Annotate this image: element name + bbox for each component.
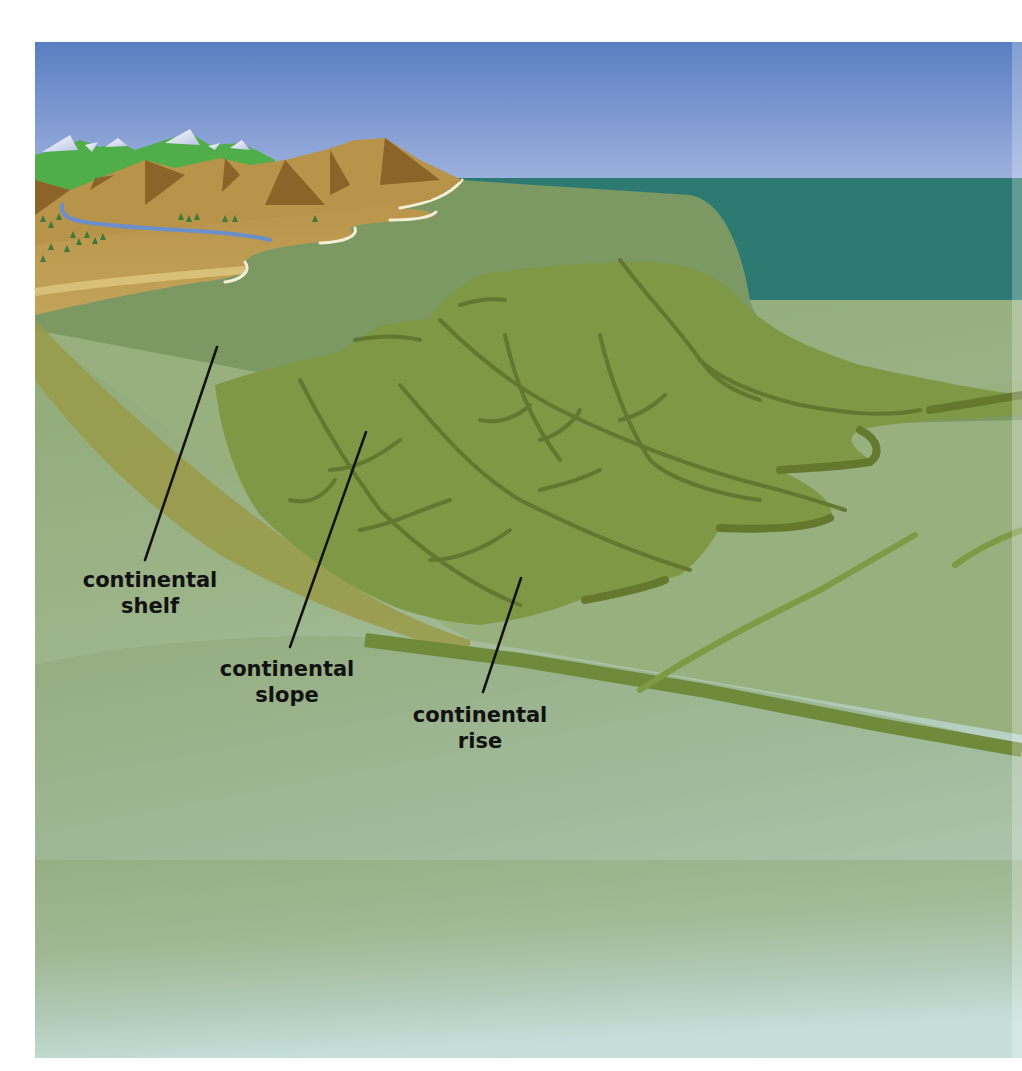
continental-margin-diagram — [0, 0, 1022, 1071]
label-continental-shelf: continental shelf — [70, 567, 230, 619]
label-rise-line1: continental — [400, 702, 560, 728]
label-slope-line2: slope — [207, 682, 367, 708]
label-continental-rise: continental rise — [400, 702, 560, 754]
label-continental-slope: continental slope — [207, 656, 367, 708]
label-slope-line1: continental — [207, 656, 367, 682]
label-shelf-line2: shelf — [70, 593, 230, 619]
label-rise-line2: rise — [400, 728, 560, 754]
label-shelf-line1: continental — [70, 567, 230, 593]
